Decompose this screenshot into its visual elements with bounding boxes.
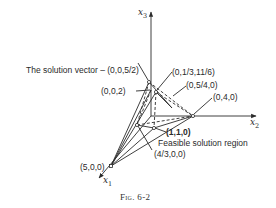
point-label-5-0-0: (5,0,0) — [80, 163, 105, 172]
solution-vector-label: The solution vector – (0,0,5/2) — [26, 66, 139, 75]
feasible-region-label: Feasible solution region — [158, 139, 248, 148]
x2-axis-label: x2 — [250, 118, 259, 129]
point-label-0-5-4-0: (0,5/4,0) — [186, 81, 218, 90]
point-label-4-3-0-0: (4/3,0,0) — [154, 150, 186, 159]
x3-axis-label: x3 — [138, 8, 147, 19]
point-label-0-4-0: (0,4,0) — [213, 93, 238, 102]
x1-axis — [99, 116, 151, 178]
point-label-0-0-2: (0,0,2) — [101, 87, 126, 96]
feasible-region-diagram — [0, 0, 276, 208]
point-label-1-1-0: (1,1,0) — [166, 128, 191, 137]
figure-caption: Fig. 6-2 — [120, 193, 150, 202]
x1-axis-label: x1 — [103, 176, 112, 187]
point-label-0-1-3-11-6: (0,1/3,11/6) — [172, 68, 215, 77]
